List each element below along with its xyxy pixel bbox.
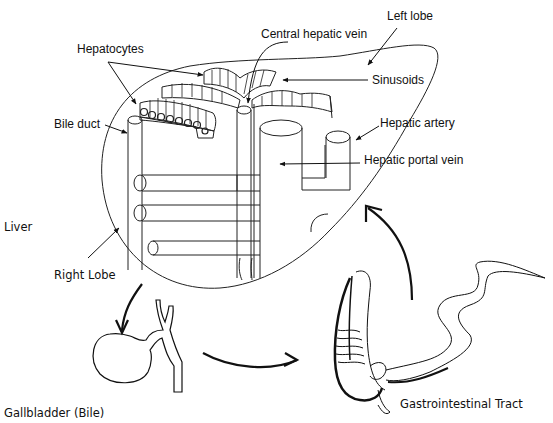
label-hepatic-artery: Hepatic artery xyxy=(380,116,455,130)
label-central-hepatic-vein: Central hepatic vein xyxy=(261,27,367,41)
vessels xyxy=(128,104,350,280)
label-gallbladder: Gallbladder (Bile) xyxy=(4,406,104,420)
diagram-graphic xyxy=(0,0,553,423)
gi-tract-drawing xyxy=(335,261,545,413)
label-left-lobe: Left lobe xyxy=(387,9,433,23)
label-hepatic-portal-vein: Hepatic portal vein xyxy=(364,153,463,167)
label-arrows xyxy=(88,28,397,258)
label-gi-tract: Gastrointestinal Tract xyxy=(400,397,523,411)
label-sinusoids: Sinusoids xyxy=(372,73,424,87)
hepatocyte-plates xyxy=(140,68,332,138)
label-bile-duct: Bile duct xyxy=(54,117,100,131)
label-hepatocytes: Hepatocytes xyxy=(77,42,144,56)
label-liver: Liver xyxy=(4,220,32,234)
label-right-lobe: Right Lobe xyxy=(54,268,116,282)
diagram-canvas: Left lobe Central hepatic vein Hepatocyt… xyxy=(0,0,553,423)
gallbladder-drawing xyxy=(93,300,182,392)
